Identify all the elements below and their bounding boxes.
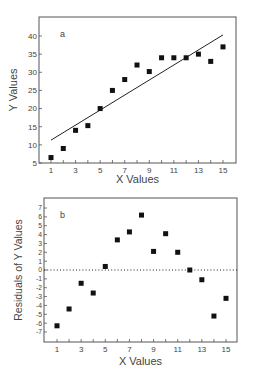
data-point-marker — [73, 128, 78, 133]
y-tick-label: -6 — [36, 320, 42, 327]
y-tick-label: 4 — [38, 231, 42, 238]
data-point-marker — [171, 55, 176, 60]
data-point-marker — [91, 291, 96, 296]
panel-b-residual-scatter: 76543210-1-2-3-4-5-6-7 13579111315 b X V… — [12, 198, 237, 367]
y-tick-label: 5 — [33, 159, 38, 168]
y-tick-label: 35 — [28, 50, 37, 59]
y-tick-label: -4 — [36, 302, 42, 309]
y-tick-label: -7 — [36, 328, 42, 335]
data-point-marker — [151, 249, 156, 254]
data-point-marker — [135, 63, 140, 68]
data-point-marker — [159, 55, 164, 60]
x-tick-label: 3 — [79, 345, 84, 354]
y-tick-label: 6 — [38, 213, 42, 220]
y-tick-label: 15 — [28, 123, 37, 132]
panel-b-label: b — [60, 210, 65, 220]
x-tick-label: 5 — [98, 166, 103, 175]
y-tick-label: -1 — [36, 275, 42, 282]
panel-a-regression-line — [51, 35, 223, 140]
panel-b-y-axis-label: Residuals of Y Values — [12, 219, 24, 321]
x-tick-label: 7 — [127, 345, 132, 354]
data-point-marker — [67, 306, 72, 311]
y-tick-label: 0 — [38, 266, 42, 273]
y-tick-label: 7 — [38, 204, 42, 211]
data-point-marker — [139, 213, 144, 218]
y-tick-label: 10 — [28, 141, 37, 150]
data-point-marker — [61, 146, 66, 151]
data-point-marker — [211, 314, 216, 319]
data-point-marker — [224, 296, 229, 301]
panel-a-plot-frame — [39, 17, 236, 163]
data-point-marker — [98, 106, 103, 111]
panel-b-y-axis-ticks: 76543210-1-2-3-4-5-6-7 — [36, 204, 47, 335]
data-point-marker — [221, 44, 226, 49]
x-tick-label: 1 — [49, 166, 54, 175]
y-tick-label: 1 — [38, 258, 42, 265]
y-tick-label: 30 — [28, 68, 37, 77]
data-point-marker — [49, 155, 54, 160]
x-tick-label: 9 — [151, 345, 156, 354]
x-tick-label: 11 — [174, 345, 183, 354]
y-tick-label: -3 — [36, 293, 42, 300]
x-tick-label: 13 — [197, 345, 206, 354]
data-point-marker — [85, 123, 90, 128]
data-point-marker — [127, 229, 132, 234]
data-point-marker — [55, 323, 60, 328]
x-tick-label: 15 — [222, 345, 231, 354]
y-tick-label: 25 — [28, 86, 37, 95]
x-tick-label: 3 — [73, 166, 78, 175]
x-tick-label: 1 — [55, 345, 60, 354]
y-tick-label: 2 — [38, 249, 42, 256]
data-point-marker — [147, 69, 152, 74]
panel-a-scatter-with-fit: 510152025303540 13579111315 a X Values Y… — [7, 17, 236, 185]
panel-b-data-points — [55, 213, 229, 329]
data-point-marker — [163, 231, 168, 236]
data-point-marker — [187, 268, 192, 273]
panel-a-x-axis-label: X Values — [116, 173, 160, 185]
data-point-marker — [184, 55, 189, 60]
panel-a-data-points — [49, 44, 226, 160]
x-tick-label: 13 — [194, 166, 203, 175]
x-tick-label: 15 — [219, 166, 228, 175]
y-tick-label: -2 — [36, 284, 42, 291]
data-point-marker — [208, 59, 213, 64]
data-point-marker — [175, 250, 180, 255]
y-tick-label: 40 — [28, 32, 37, 41]
data-point-marker — [122, 77, 127, 82]
data-point-marker — [110, 88, 115, 93]
panel-b-x-axis-ticks: 13579111315 — [55, 339, 231, 354]
panel-a-label: a — [60, 29, 65, 39]
x-tick-label: 5 — [103, 345, 108, 354]
data-point-marker — [103, 264, 108, 269]
panel-a-y-axis-ticks: 510152025303540 — [28, 32, 42, 168]
y-tick-label: 5 — [38, 222, 42, 229]
data-point-marker — [199, 277, 204, 282]
data-point-marker — [196, 52, 201, 57]
y-tick-label: -5 — [36, 311, 42, 318]
x-tick-label: 11 — [170, 166, 179, 175]
y-tick-label: 3 — [38, 240, 42, 247]
data-point-marker — [79, 281, 84, 286]
chart-figure: 510152025303540 13579111315 a X Values Y… — [0, 0, 255, 380]
y-tick-label: 20 — [28, 104, 37, 113]
panel-b-x-axis-label: X Values — [119, 355, 163, 367]
data-point-marker — [115, 237, 120, 242]
panel-a-y-axis-label: Y Values — [7, 68, 19, 112]
